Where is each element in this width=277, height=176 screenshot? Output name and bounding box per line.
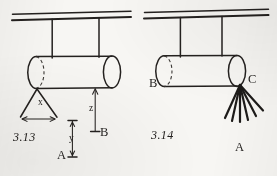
ceiling-left (12, 11, 131, 20)
label-point-a-fig313: A (57, 149, 66, 162)
figure-page: x y z A B 3.13 B C A 3.14 (0, 0, 277, 176)
label-dimension-y: y (69, 134, 74, 144)
label-point-c-fig314: C (248, 73, 256, 86)
label-dimension-z: z (89, 104, 93, 114)
ceiling-right (144, 9, 269, 18)
cylinder-hidden-edge-left (36, 57, 44, 89)
figure-3-14-drawing (144, 9, 269, 122)
dimension-x-arrow (22, 117, 55, 122)
label-dimension-x: x (38, 98, 43, 108)
figure-number-3-13: 3.13 (13, 131, 36, 143)
cable-fan-at-c (225, 85, 263, 122)
cylinder-right (156, 55, 246, 86)
label-point-b-fig313: B (100, 126, 108, 139)
cylinder-left (28, 56, 121, 88)
label-point-a-fig314: A (235, 141, 244, 154)
label-point-b-fig314: B (149, 77, 157, 90)
figure-number-3-14: 3.14 (151, 129, 174, 141)
cylinder-hidden-edge-right (164, 56, 172, 87)
